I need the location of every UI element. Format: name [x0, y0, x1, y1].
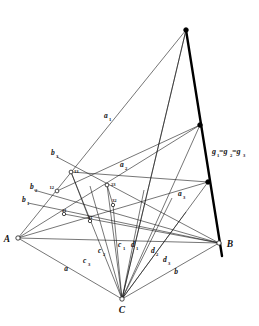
intersection-label-13: 13	[74, 169, 79, 174]
label-d2: d 2	[151, 246, 159, 257]
label-c2: c 2	[98, 246, 106, 257]
label-c3-base: c	[83, 256, 87, 265]
label-b1-base: b	[22, 195, 26, 204]
axis-point-g1	[184, 28, 189, 33]
intersection-label-23: 23	[111, 182, 116, 187]
ray-a2	[18, 125, 200, 238]
label-b2-base: b	[30, 182, 34, 191]
side-cb	[122, 243, 219, 299]
intersection-point-32	[111, 203, 114, 206]
vertex-label-c: C	[119, 305, 126, 315]
label-a1-sub: 1	[109, 117, 112, 122]
vertex-label-b: B	[226, 239, 233, 249]
cross-line-2	[57, 125, 200, 191]
ray-b1	[28, 203, 219, 243]
label-c1-base: c	[118, 240, 122, 249]
ray-d3	[122, 212, 186, 299]
intersection-label-12: 12	[49, 185, 54, 190]
label-a2: a 2	[120, 160, 128, 171]
label-b3-base: b	[51, 148, 55, 157]
vertex-label-a: A	[3, 234, 10, 244]
intersection-point-12	[55, 189, 59, 193]
side-label-b: b	[174, 267, 178, 276]
geometry-figure: A B C a b a 1 a 2 a 3 b 3 b 2 b 1	[0, 0, 259, 326]
cross-line-4	[71, 172, 90, 221]
axis-g-line	[186, 30, 222, 256]
cross-line-1	[71, 172, 208, 182]
axis-point-g3	[206, 180, 211, 185]
intersection-label-31: 31	[88, 215, 93, 220]
vertex-marker-a	[16, 236, 20, 240]
label-c1-sub: 1	[123, 246, 126, 251]
axis-label-g-sub3: 3	[243, 153, 246, 158]
label-d3-sub: 3	[168, 261, 171, 266]
label-a1-base: a	[104, 111, 108, 120]
label-d1-base: d	[131, 240, 135, 249]
intersection-point-23	[105, 183, 109, 187]
pencil-from-b	[28, 157, 219, 243]
label-a3: a 3	[178, 189, 186, 200]
vertex-marker-c	[120, 297, 124, 301]
ray-d2	[122, 198, 172, 299]
axis-label-g-eq2: =g	[232, 147, 241, 156]
label-d1-sub: 1	[136, 246, 139, 251]
axis-label-g: g 1 =g 2 =g 3	[211, 147, 246, 158]
label-a3-base: a	[178, 189, 182, 198]
label-c2-sub: 2	[103, 252, 106, 257]
label-b2-sub: 2	[35, 188, 38, 193]
intersection-label-21: 21	[62, 208, 67, 213]
label-c3-sub: 3	[88, 262, 91, 267]
label-d2-base: d	[151, 246, 155, 255]
side-ac	[18, 238, 122, 299]
intersection-point-13	[69, 170, 73, 174]
axis-label-g-eq1: =g	[219, 147, 228, 156]
label-d2-sub: 2	[156, 252, 159, 257]
label-a2-base: a	[120, 160, 124, 169]
ray-b2	[34, 190, 219, 243]
axis-point-g2	[198, 123, 203, 128]
ray-c-extra	[113, 205, 122, 299]
vertex-marker-b	[217, 241, 221, 245]
label-b1: b 1	[22, 195, 30, 206]
ray-a1	[18, 30, 186, 238]
label-d3-base: d	[163, 255, 167, 264]
label-b2: b 2	[30, 182, 38, 193]
label-b3: b 3	[51, 148, 59, 159]
cross-line-6	[122, 30, 186, 299]
label-a1: a 1	[104, 111, 112, 122]
axis-label-g-main: g	[211, 147, 216, 156]
axis-g-group	[186, 30, 222, 256]
label-d3: d 3	[163, 255, 171, 266]
label-c1: c 1	[118, 240, 126, 251]
label-b3-sub: 3	[56, 154, 59, 159]
side-label-a: a	[64, 264, 68, 273]
intersection-label-32: 32	[112, 198, 117, 203]
label-c3: c 3	[83, 256, 91, 267]
cross-lines	[57, 30, 219, 299]
diagram-canvas: A B C a b a 1 a 2 a 3 b 3 b 2 b 1	[0, 0, 259, 326]
label-a3-sub: 3	[183, 195, 186, 200]
